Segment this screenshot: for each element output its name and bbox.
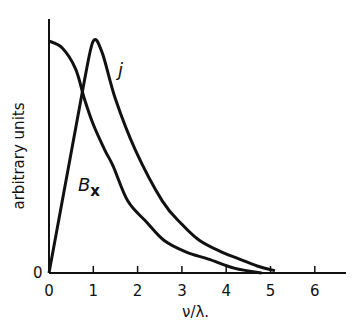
x-tick-label: 2	[133, 282, 143, 300]
curve-b-x	[49, 41, 262, 273]
x-axis-title: ν/λ.	[182, 303, 209, 321]
y-zero-label: 0	[33, 264, 43, 282]
y-axis-title: arbitrary units	[10, 102, 28, 209]
x-tick-label: 0	[44, 282, 54, 300]
x-tick-label: 4	[221, 282, 231, 300]
x-tick-label: 3	[177, 282, 187, 300]
curve-label-b: B	[78, 174, 90, 195]
curve-label-x-subscript: x	[90, 182, 100, 200]
x-tick-label: 1	[89, 282, 99, 300]
x-tick-labels: 0123456	[44, 282, 319, 300]
curve-label-j: j	[115, 59, 123, 80]
x-tick-label: 5	[266, 282, 276, 300]
curve-label-b-x: Bx	[78, 174, 100, 200]
x-tick-label: 6	[310, 282, 320, 300]
chart-canvas: 0123456 0 j Bx ν/λ. arbitrary units	[0, 0, 357, 325]
x-ticks	[93, 266, 314, 273]
